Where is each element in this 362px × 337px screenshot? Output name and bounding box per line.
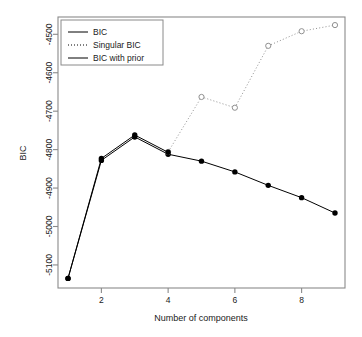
y-tick-label: -5100	[44, 254, 54, 276]
data-point	[266, 183, 271, 188]
x-tick-label: 6	[233, 295, 238, 305]
y-tick-label: -4800	[44, 138, 54, 160]
data-point	[232, 169, 237, 174]
data-point	[199, 158, 204, 163]
series-line	[68, 135, 168, 278]
x-axis-tick-labels: 2468	[99, 295, 304, 305]
y-tick-label: -4700	[44, 100, 54, 122]
series-bic-with-prior	[65, 132, 171, 281]
data-point	[299, 195, 304, 200]
series-singular-bic	[166, 22, 338, 154]
x-axis-title: Number of components	[154, 313, 248, 323]
data-point	[132, 132, 137, 137]
data-point	[65, 276, 70, 281]
y-tick-label: -4600	[44, 62, 54, 84]
data-point	[232, 105, 237, 110]
data-point	[165, 150, 170, 155]
data-point	[199, 94, 204, 99]
y-axis-title: BIC	[18, 145, 28, 161]
x-tick-label: 8	[299, 295, 304, 305]
legend-label: BIC	[93, 27, 107, 37]
data-point	[266, 43, 271, 48]
legend: BICSingular BICBIC with prior	[61, 20, 163, 65]
y-tick-label: -4900	[44, 177, 54, 199]
data-point	[332, 210, 337, 215]
series-line	[168, 25, 335, 152]
data-point	[99, 156, 104, 161]
data-point	[332, 22, 337, 27]
y-axis-tick-labels: -4500-4600-4700-4800-4900-5000-5100	[44, 23, 54, 276]
y-tick-label: -4500	[44, 23, 54, 45]
bic-line-chart: -4500-4600-4700-4800-4900-5000-5100 2468…	[0, 0, 362, 337]
chart-figure: -4500-4600-4700-4800-4900-5000-5100 2468…	[0, 0, 362, 337]
x-tick-label: 4	[166, 295, 171, 305]
x-axis-ticks	[101, 288, 301, 293]
y-tick-label: -5000	[44, 215, 54, 237]
legend-label: BIC with prior	[93, 53, 144, 63]
data-point	[299, 29, 304, 34]
series-line	[68, 137, 335, 278]
series-bic	[65, 134, 337, 281]
legend-label: Singular BIC	[93, 40, 141, 50]
x-tick-label: 2	[99, 295, 104, 305]
